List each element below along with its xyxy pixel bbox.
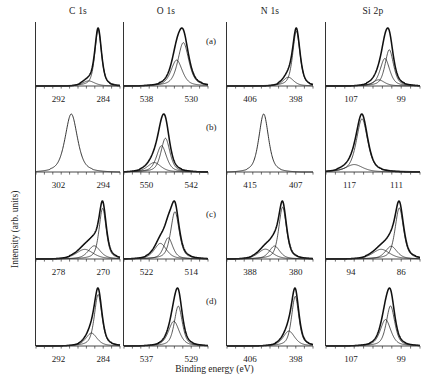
spectrum-panel-d-c1s: 292284 <box>36 282 120 366</box>
spectrum-envelope <box>227 28 313 86</box>
spectrum-plot <box>227 195 315 261</box>
spectrum-envelope <box>124 288 208 346</box>
x-tick-label: 550 <box>130 180 162 190</box>
spectrum-envelope <box>36 114 120 172</box>
x-tick-label: 294 <box>87 180 119 190</box>
spectrum-plot <box>227 108 315 174</box>
spectrum-panel-d-o1s: 537529 <box>124 282 208 366</box>
spectrum-plot <box>124 108 210 174</box>
fit-component-main <box>124 212 208 259</box>
x-tick-label: 380 <box>280 267 312 277</box>
y-axis-line <box>123 22 124 346</box>
x-tick-label: 407 <box>280 180 312 190</box>
spectrum-panel-d-si2p: 10799 <box>326 282 420 366</box>
x-tick-label: 99 <box>385 354 417 364</box>
spectrum-envelope <box>36 28 120 86</box>
x-tick-label: 529 <box>175 354 207 364</box>
spectrum-plot <box>326 108 422 174</box>
spectrum-envelope <box>227 288 313 346</box>
column-title-c1s: C 1s <box>36 6 120 16</box>
spectrum-plot <box>124 282 210 348</box>
y-axis-label: Intensity (arb. units) <box>10 191 20 268</box>
x-tick-label: 292 <box>42 94 74 104</box>
x-tick-label: 542 <box>175 180 207 190</box>
x-tick-label: 111 <box>381 180 413 190</box>
fit-component-main <box>326 119 420 172</box>
x-tick-label: 406 <box>234 94 266 104</box>
x-tick-label: 537 <box>130 354 162 364</box>
x-tick-label: 270 <box>87 267 119 277</box>
spectrum-plot <box>124 22 210 88</box>
xps-figure: Intensity (arb. units) Binding energy (e… <box>0 0 429 383</box>
fit-component-main <box>124 306 208 346</box>
y-axis-line <box>35 22 36 346</box>
x-tick-label: 107 <box>335 354 367 364</box>
x-tick-label: 292 <box>42 354 74 364</box>
spectrum-panel-c-c1s: 278270 <box>36 195 120 279</box>
spectrum-envelope <box>326 28 420 86</box>
fit-component-shoulder <box>227 77 313 86</box>
spectrum-panel-c-si2p: 9486 <box>326 195 420 279</box>
fit-component-second <box>326 320 420 346</box>
x-tick-label: 94 <box>335 267 367 277</box>
spectrum-plot <box>36 195 122 261</box>
spectrum-envelope <box>326 114 420 172</box>
x-tick-label: 514 <box>175 267 207 277</box>
fit-component-second <box>124 146 208 172</box>
fit-component-main <box>36 30 120 86</box>
x-tick-label: 107 <box>335 94 367 104</box>
fit-component-second <box>326 58 420 85</box>
spectrum-panel-c-n1s: 388380 <box>227 195 313 279</box>
fit-component-shoulder <box>227 331 313 346</box>
spectrum-panel-a-c1s: 292284 <box>36 22 120 106</box>
x-tick-label: 522 <box>130 267 162 277</box>
x-tick-label: 284 <box>87 354 119 364</box>
spectrum-plot <box>36 282 122 348</box>
spectrum-panel-b-c1s: 302294 <box>36 108 120 192</box>
spectrum-plot <box>36 22 122 88</box>
spectrum-plot <box>326 282 422 348</box>
spectrum-envelope <box>326 201 420 259</box>
spectrum-plot <box>36 108 122 174</box>
y-axis-line <box>226 22 227 346</box>
spectrum-envelope <box>227 114 313 172</box>
x-tick-label: 99 <box>385 94 417 104</box>
column-title-n1s: N 1s <box>227 6 313 16</box>
fit-component-second <box>326 246 420 259</box>
x-tick-label: 302 <box>42 180 74 190</box>
x-tick-label: 117 <box>334 180 366 190</box>
x-tick-label: 530 <box>175 94 207 104</box>
column-title-si2p: Si 2p <box>326 6 420 16</box>
spectrum-panel-d-n1s: 406398 <box>227 282 313 366</box>
spectrum-envelope <box>326 288 420 346</box>
spectrum-panel-a-n1s: 406398 <box>227 22 313 106</box>
spectrum-plot <box>124 195 210 261</box>
spectrum-plot <box>326 22 422 88</box>
spectrum-envelope <box>36 201 120 259</box>
spectrum-panel-a-si2p: 10799 <box>326 22 420 106</box>
x-tick-label: 538 <box>130 94 162 104</box>
x-tick-label: 398 <box>280 354 312 364</box>
spectrum-envelope <box>124 28 208 86</box>
fit-component-second <box>124 238 208 259</box>
x-tick-label: 415 <box>234 180 266 190</box>
x-tick-label: 398 <box>280 94 312 104</box>
x-tick-label: 388 <box>234 267 266 277</box>
spectrum-envelope <box>124 114 208 172</box>
spectrum-panel-b-n1s: 415407 <box>227 108 313 192</box>
y-axis-line <box>325 22 326 346</box>
spectrum-plot <box>326 195 422 261</box>
spectrum-panel-a-o1s: 538530 <box>124 22 208 106</box>
spectrum-envelope <box>36 288 120 346</box>
spectrum-plot <box>227 282 315 348</box>
fit-component-main <box>124 43 208 86</box>
x-tick-label: 406 <box>234 354 266 364</box>
x-tick-label: 86 <box>385 267 417 277</box>
spectrum-panel-c-o1s: 522514 <box>124 195 208 279</box>
x-tick-label: 284 <box>87 94 119 104</box>
column-title-o1s: O 1s <box>124 6 208 16</box>
spectrum-panel-b-o1s: 550542 <box>124 108 208 192</box>
fit-component-second <box>124 60 208 86</box>
spectrum-plot <box>227 22 315 88</box>
fit-component-main <box>326 50 420 86</box>
